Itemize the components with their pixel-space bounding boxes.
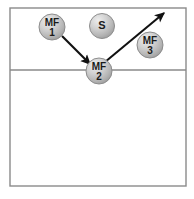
player-mf3-role-label: MF: [143, 35, 157, 46]
player-mf2[interactable]: MF 2: [86, 58, 112, 84]
player-mf2-role-label: MF: [92, 61, 106, 72]
player-mf3-number-label: 3: [147, 45, 153, 56]
court-diagram-svg: MF 1 S MF 2 MF 3: [0, 0, 194, 199]
player-mf1-role-label: MF: [45, 17, 59, 28]
player-mf1[interactable]: MF 1: [39, 14, 65, 40]
player-setter[interactable]: S: [90, 14, 115, 39]
court-diagram-container: MF 1 S MF 2 MF 3: [0, 0, 194, 199]
player-mf2-number-label: 2: [96, 71, 102, 82]
player-mf3[interactable]: MF 3: [137, 32, 163, 58]
player-setter-role-label: S: [98, 19, 105, 31]
player-mf1-number-label: 1: [49, 27, 55, 38]
